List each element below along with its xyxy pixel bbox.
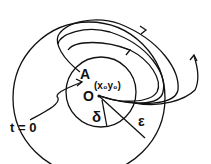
delta-radius: [102, 100, 107, 127]
label-coordinates: (x₀y₀): [94, 80, 121, 91]
origin-point: [97, 94, 100, 97]
label-delta: δ: [92, 108, 101, 125]
label-epsilon: ε: [138, 113, 145, 129]
stability-diagram: A (x₀y₀) O δ ε t = 0: [0, 0, 211, 164]
arrow-head-middle: [124, 48, 130, 55]
label-origin: O: [83, 88, 94, 104]
arrow-head-outer: [140, 26, 146, 34]
label-start-time: t = 0: [10, 120, 36, 135]
orbit-escape: [135, 56, 198, 105]
label-point-a: A: [80, 66, 90, 82]
arrow-head-escape: [190, 55, 197, 61]
